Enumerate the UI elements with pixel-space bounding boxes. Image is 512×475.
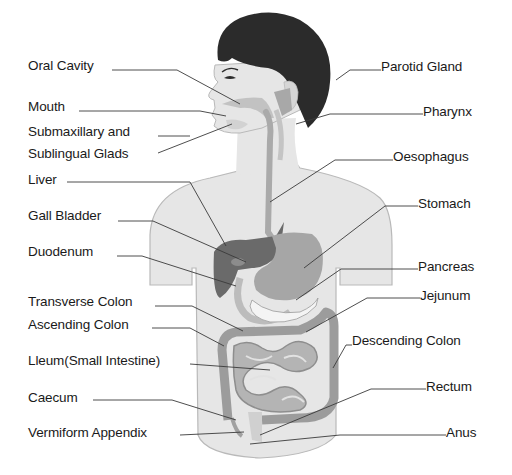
label-stomach: Stomach: [418, 196, 471, 212]
label-pharynx: Pharynx: [423, 104, 472, 120]
label-caecum: Caecum: [28, 390, 78, 406]
label-pancreas: Pancreas: [418, 259, 474, 275]
label-sublingual-glands: Sublingual Glads: [28, 146, 128, 162]
label-mouth: Mouth: [28, 99, 65, 115]
label-parotid-gland: Parotid Gland: [381, 59, 462, 75]
label-oesophagus: Oesophagus: [393, 149, 469, 165]
label-liver: Liver: [28, 172, 57, 188]
label-ascending-colon: Ascending Colon: [28, 317, 129, 333]
label-jejunum: Jejunum: [420, 288, 470, 304]
label-submaxillary: Submaxillary and: [28, 124, 130, 140]
label-ileum: Lleum(Small Intestine): [28, 353, 160, 369]
label-rectum: Rectum: [426, 379, 472, 395]
gall-bladder-shape: [231, 258, 245, 266]
label-transverse-colon: Transverse Colon: [28, 294, 132, 310]
label-duodenum: Duodenum: [28, 244, 93, 260]
label-anus: Anus: [446, 425, 476, 441]
label-descending-colon: Descending Colon: [352, 333, 461, 349]
label-gall-bladder: Gall Bladder: [28, 208, 101, 224]
label-oral-cavity: Oral Cavity: [28, 58, 94, 74]
label-vermiform-appendix: Vermiform Appendix: [28, 425, 147, 441]
